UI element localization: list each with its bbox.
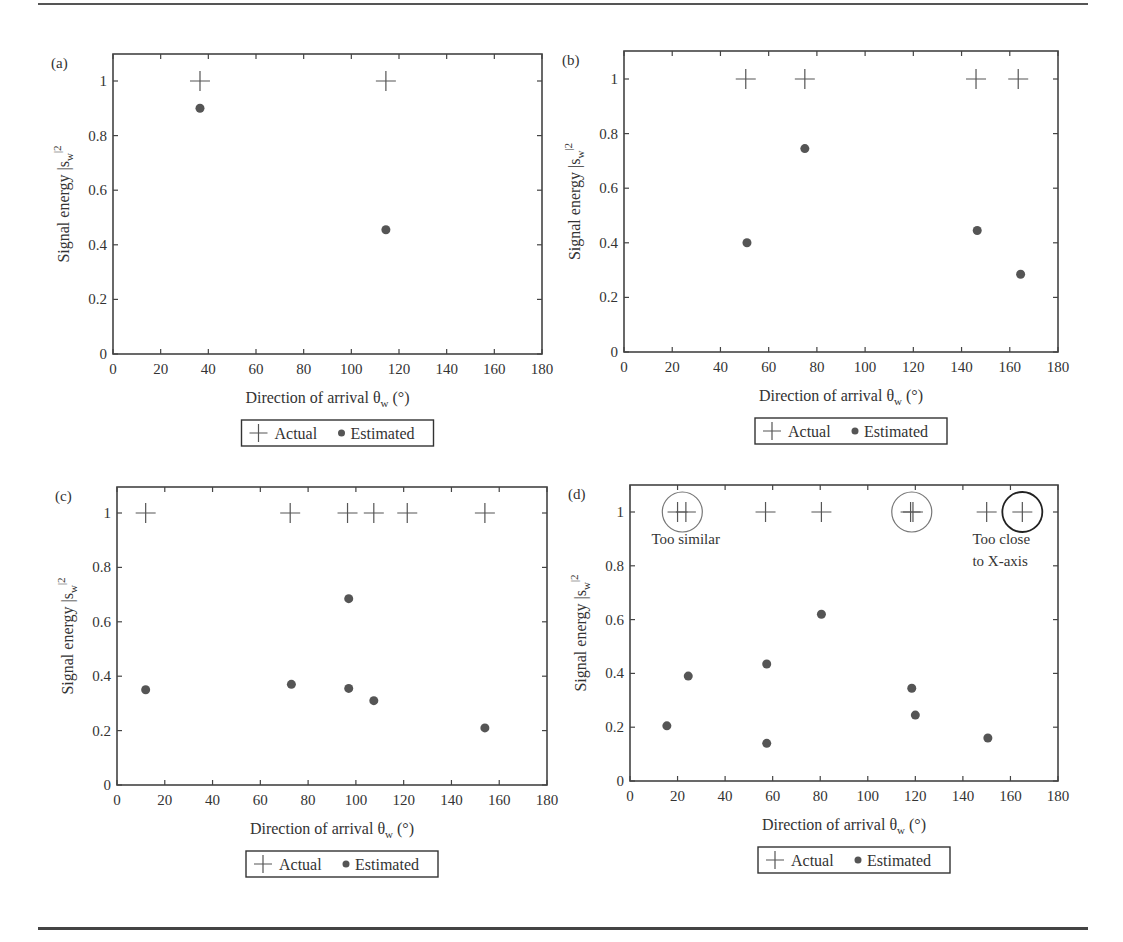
x-tick-label: 140: [950, 359, 973, 375]
y-tick-label: 0: [104, 777, 112, 793]
actual-marker: [966, 69, 986, 89]
actual-marker: [795, 69, 815, 89]
estimated-marker: [742, 238, 751, 247]
x-tick-label: 160: [999, 788, 1022, 804]
x-tick-label: 160: [483, 361, 506, 377]
x-tick-label: 100: [340, 361, 363, 377]
y-tick-label: 0.2: [92, 723, 111, 739]
legend: ActualEstimated: [758, 847, 950, 873]
panel-a: 02040608010012014016018000.20.40.60.81(a…: [51, 54, 553, 446]
panel-c: 02040608010012014016018000.20.40.60.81(c…: [55, 487, 558, 877]
actual-marker: [1012, 502, 1032, 522]
legend: ActualEstimated: [246, 851, 438, 877]
x-tick-label: 40: [718, 788, 733, 804]
y-tick-label: 0.6: [92, 614, 111, 630]
x-tick-label: 0: [626, 788, 634, 804]
x-axis-label: Direction of arrival θw (°): [762, 816, 926, 836]
y-tick-label: 0.4: [92, 668, 111, 684]
x-tick-label: 60: [253, 792, 268, 808]
x-tick-label: 140: [952, 788, 975, 804]
actual-marker: [136, 503, 156, 523]
y-tick-label: 0.8: [92, 559, 111, 575]
estimated-marker: [344, 684, 353, 693]
x-tick-label: 80: [813, 788, 828, 804]
actual-marker: [190, 71, 210, 91]
y-tick-label: 0.6: [599, 180, 618, 196]
estimated-marker: [141, 685, 150, 694]
estimated-marker: [907, 684, 916, 693]
actual-marker: [397, 503, 417, 523]
annotation-text: Too closeto X-axis: [972, 531, 1030, 569]
legend-actual-label: Actual: [275, 425, 318, 442]
estimated-marker: [195, 104, 204, 113]
y-axis-label: Signal energy |sw|2: [55, 577, 79, 694]
x-tick-label: 140: [435, 361, 458, 377]
x-tick-label: 160: [999, 359, 1022, 375]
y-tick-label: 1: [100, 73, 108, 89]
legend-actual-label: Actual: [788, 423, 831, 440]
y-tick-label: 0.8: [599, 126, 618, 142]
actual-marker: [756, 502, 776, 522]
x-tick-label: 0: [109, 361, 117, 377]
x-tick-label: 160: [488, 792, 511, 808]
panel-b: 02040608010012014016018000.20.40.60.81(b…: [562, 51, 1069, 444]
x-tick-label: 180: [1047, 359, 1070, 375]
actual-marker: [903, 502, 923, 522]
y-tick-label: 0.2: [599, 289, 618, 305]
y-tick-label: 0.8: [605, 558, 624, 574]
y-tick-label: 0.2: [88, 291, 107, 307]
x-axis-label: Direction of arrival θw (°): [759, 387, 923, 407]
estimated-marker: [287, 680, 296, 689]
y-tick-label: 0.6: [605, 612, 624, 628]
plot-frame: [117, 487, 547, 785]
panel-label: (a): [51, 55, 68, 72]
x-tick-label: 100: [854, 359, 877, 375]
legend-actual-label: Actual: [791, 852, 834, 869]
y-tick-label: 0.6: [88, 182, 107, 198]
x-tick-label: 40: [713, 359, 728, 375]
estimated-marker: [911, 711, 920, 720]
x-tick-label: 100: [345, 792, 368, 808]
x-tick-label: 180: [1047, 788, 1070, 804]
y-tick-label: 0.4: [88, 237, 107, 253]
x-tick-label: 0: [620, 359, 628, 375]
x-tick-label: 20: [670, 788, 685, 804]
x-tick-label: 120: [392, 792, 415, 808]
estimated-marker: [369, 696, 378, 705]
actual-marker: [1008, 69, 1028, 89]
legend-actual-label: Actual: [279, 856, 322, 873]
annotation-text: Too similar: [651, 531, 720, 547]
dot-icon: [343, 861, 350, 868]
plot-frame: [113, 54, 542, 354]
x-tick-label: 40: [205, 792, 220, 808]
dot-icon: [855, 857, 862, 864]
plot-frame: [630, 485, 1058, 781]
x-tick-label: 60: [761, 359, 776, 375]
y-tick-label: 0: [611, 344, 619, 360]
estimated-marker: [344, 594, 353, 603]
y-tick-label: 0.4: [605, 665, 624, 681]
y-tick-label: 1: [617, 504, 625, 520]
estimated-marker: [381, 225, 390, 234]
x-tick-label: 180: [536, 792, 559, 808]
x-tick-label: 60: [249, 361, 264, 377]
figure-canvas: 02040608010012014016018000.20.40.60.81(a…: [0, 0, 1123, 942]
x-tick-label: 20: [665, 359, 680, 375]
legend: ActualEstimated: [242, 420, 434, 446]
actual-marker: [338, 503, 358, 523]
estimated-marker: [817, 610, 826, 619]
actual-marker: [280, 503, 300, 523]
legend-estimated-label: Estimated: [867, 852, 931, 869]
estimated-marker: [762, 739, 771, 748]
y-axis-label: Signal energy |sw|2: [568, 574, 592, 691]
panel-d: 02040608010012014016018000.20.40.60.81(d…: [568, 485, 1069, 873]
estimated-marker: [800, 144, 809, 153]
estimated-marker: [684, 672, 693, 681]
x-tick-label: 180: [531, 361, 554, 377]
legend-estimated-label: Estimated: [355, 856, 419, 873]
y-tick-label: 0.2: [605, 719, 624, 735]
x-tick-label: 20: [157, 792, 172, 808]
x-tick-label: 20: [153, 361, 168, 377]
y-tick-label: 1: [104, 505, 112, 521]
x-tick-label: 80: [301, 792, 316, 808]
